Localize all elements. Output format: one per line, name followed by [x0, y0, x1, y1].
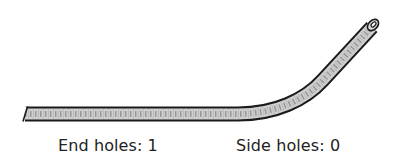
tube-body: [25, 27, 372, 114]
end-holes-label: End holes: 1: [58, 136, 158, 155]
side-holes-label: Side holes: 0: [236, 136, 340, 155]
